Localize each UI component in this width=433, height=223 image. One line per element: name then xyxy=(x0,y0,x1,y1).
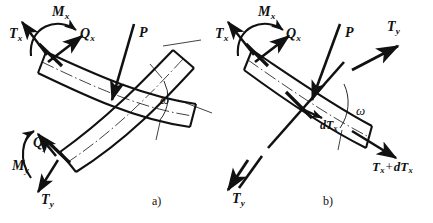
force-arrow-ty-top-b xyxy=(352,46,398,70)
beam-force-diagram: Tx Mx Qx P ω Qy My Ty Tx Mx Qx P Ty ω dT… xyxy=(0,0,433,223)
beam-b-primary xyxy=(244,50,372,148)
label-mx-a: Mx xyxy=(52,5,69,21)
label-ty-a: Ty xyxy=(41,193,54,209)
label-tx-plus-dtx-b: Tx+dTx xyxy=(372,160,413,175)
label-ty-top-b: Ty xyxy=(387,20,400,36)
label-p-a: P xyxy=(139,26,148,40)
label-omega-b: ω xyxy=(356,103,365,119)
panel-b-graphics xyxy=(0,0,398,190)
force-arrow-ty-a xyxy=(38,160,58,192)
force-arrow-p-b xyxy=(312,24,340,100)
caption-panel-b: b) xyxy=(323,194,333,209)
label-tx-a: Tx xyxy=(9,27,22,43)
label-p-b: P xyxy=(345,26,354,40)
force-arrow-qx-a xyxy=(48,36,82,62)
label-ty-bottom-b: Ty xyxy=(232,192,245,208)
label-qx-a: Qx xyxy=(80,27,95,43)
panel-a-graphics xyxy=(22,22,212,192)
label-my-a: My xyxy=(12,159,29,175)
label-qy-a: Qy xyxy=(33,136,47,152)
label-omega-a: ω xyxy=(160,92,169,108)
beam-a-primary xyxy=(38,52,196,127)
label-mx-b: Mx xyxy=(258,5,275,21)
moment-arrow-mx-b xyxy=(238,24,283,56)
label-tx-b: Tx xyxy=(215,27,228,43)
label-qx-b: Qx xyxy=(286,27,301,43)
caption-panel-a: a) xyxy=(152,194,161,209)
moment-arrow-mx-a xyxy=(31,24,76,56)
label-dtx-b: dTx xyxy=(320,119,337,133)
force-arrow-qx-b xyxy=(255,36,289,62)
force-arrow-ty-bottom-b xyxy=(228,160,248,190)
